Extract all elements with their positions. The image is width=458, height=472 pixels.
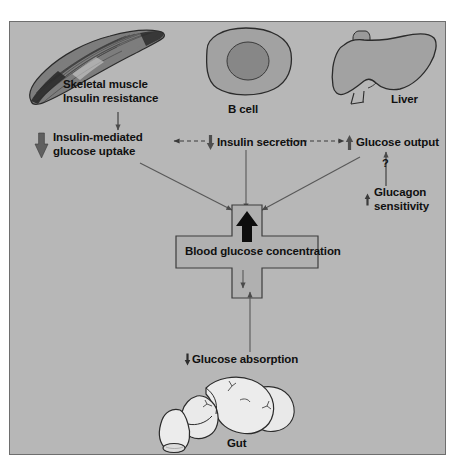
blood-glucose-text: Blood glucose concentration (185, 245, 341, 257)
glucose-absorption-text: Glucose absorption (192, 353, 298, 367)
node-glucose-absorption: Glucose absorption (184, 353, 298, 367)
insulin-secretion-text: Insulin secretion (217, 136, 307, 150)
glucagon-line1: Glucagon (374, 186, 426, 198)
decrease-arrow-medium-icon (206, 134, 215, 151)
label-blood-glucose-concentration: Blood glucose concentration (185, 245, 341, 259)
liver-icon (332, 31, 436, 104)
decrease-arrow-large-icon (34, 131, 49, 159)
annotation-uncertain: ? (382, 157, 389, 170)
label-liver: Liver (391, 93, 418, 107)
label-liver-text: Liver (391, 93, 418, 105)
uncertain-text: ? (382, 157, 389, 169)
uptake-line1: Insulin-mediated (53, 131, 143, 143)
figure-stage: Skeletal muscle Insulin resistance B cel… (0, 0, 458, 472)
glucagon-line2: sensitivity (374, 200, 429, 212)
node-insulin-secretion: Insulin secretion (206, 134, 307, 151)
node-insulin-mediated-uptake: Insulin-mediated glucose uptake (34, 131, 143, 159)
label-skeletal-muscle: Skeletal muscle Insulin resistance (63, 78, 158, 105)
label-b-cell: B cell (228, 103, 258, 117)
edge-uptake-to-blood-glucose (140, 163, 232, 210)
uptake-line2: glucose uptake (53, 145, 135, 157)
increase-arrow-medium-icon (345, 134, 354, 151)
glucose-output-text: Glucose output (356, 136, 439, 150)
label-skeletal-muscle-line1: Skeletal muscle (63, 78, 148, 90)
node-glucose-output: Glucose output (345, 134, 439, 151)
diagram-canvas (0, 0, 458, 472)
label-b-cell-text: B cell (228, 103, 258, 115)
increase-arrow-small-icon (364, 193, 371, 206)
node-glucagon-sensitivity: Glucagon sensitivity (364, 186, 429, 213)
label-gut: Gut (227, 437, 247, 451)
decrease-arrow-small-icon (184, 353, 191, 366)
beta-cell-icon (207, 28, 292, 95)
label-insulin-resistance: Insulin resistance (63, 92, 158, 104)
edge-output-to-blood-glucose (262, 157, 360, 210)
label-gut-text: Gut (227, 437, 247, 449)
